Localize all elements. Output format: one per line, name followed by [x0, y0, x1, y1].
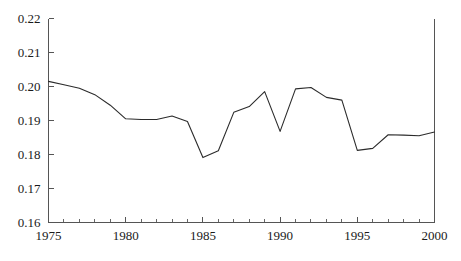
- y-tick-label: 0.17: [18, 181, 41, 196]
- chart-canvas: 0.160.170.180.190.200.210.22 19751980198…: [0, 0, 461, 261]
- chart-background: [0, 0, 461, 261]
- x-tick-label: 1985: [190, 228, 216, 243]
- x-tick-label: 1975: [36, 228, 62, 243]
- y-tick-label: 0.19: [18, 113, 41, 128]
- x-tick-label: 1995: [344, 228, 370, 243]
- x-tick-label: 1990: [267, 228, 293, 243]
- x-tick-label: 1980: [113, 228, 139, 243]
- y-tick-label: 0.21: [18, 45, 41, 60]
- y-tick-label: 0.22: [18, 11, 41, 26]
- line-chart: 0.160.170.180.190.200.210.22 19751980198…: [0, 0, 461, 261]
- y-tick-label: 0.18: [18, 147, 41, 162]
- x-tick-label: 2000: [422, 228, 448, 243]
- y-tick-label: 0.20: [18, 79, 41, 94]
